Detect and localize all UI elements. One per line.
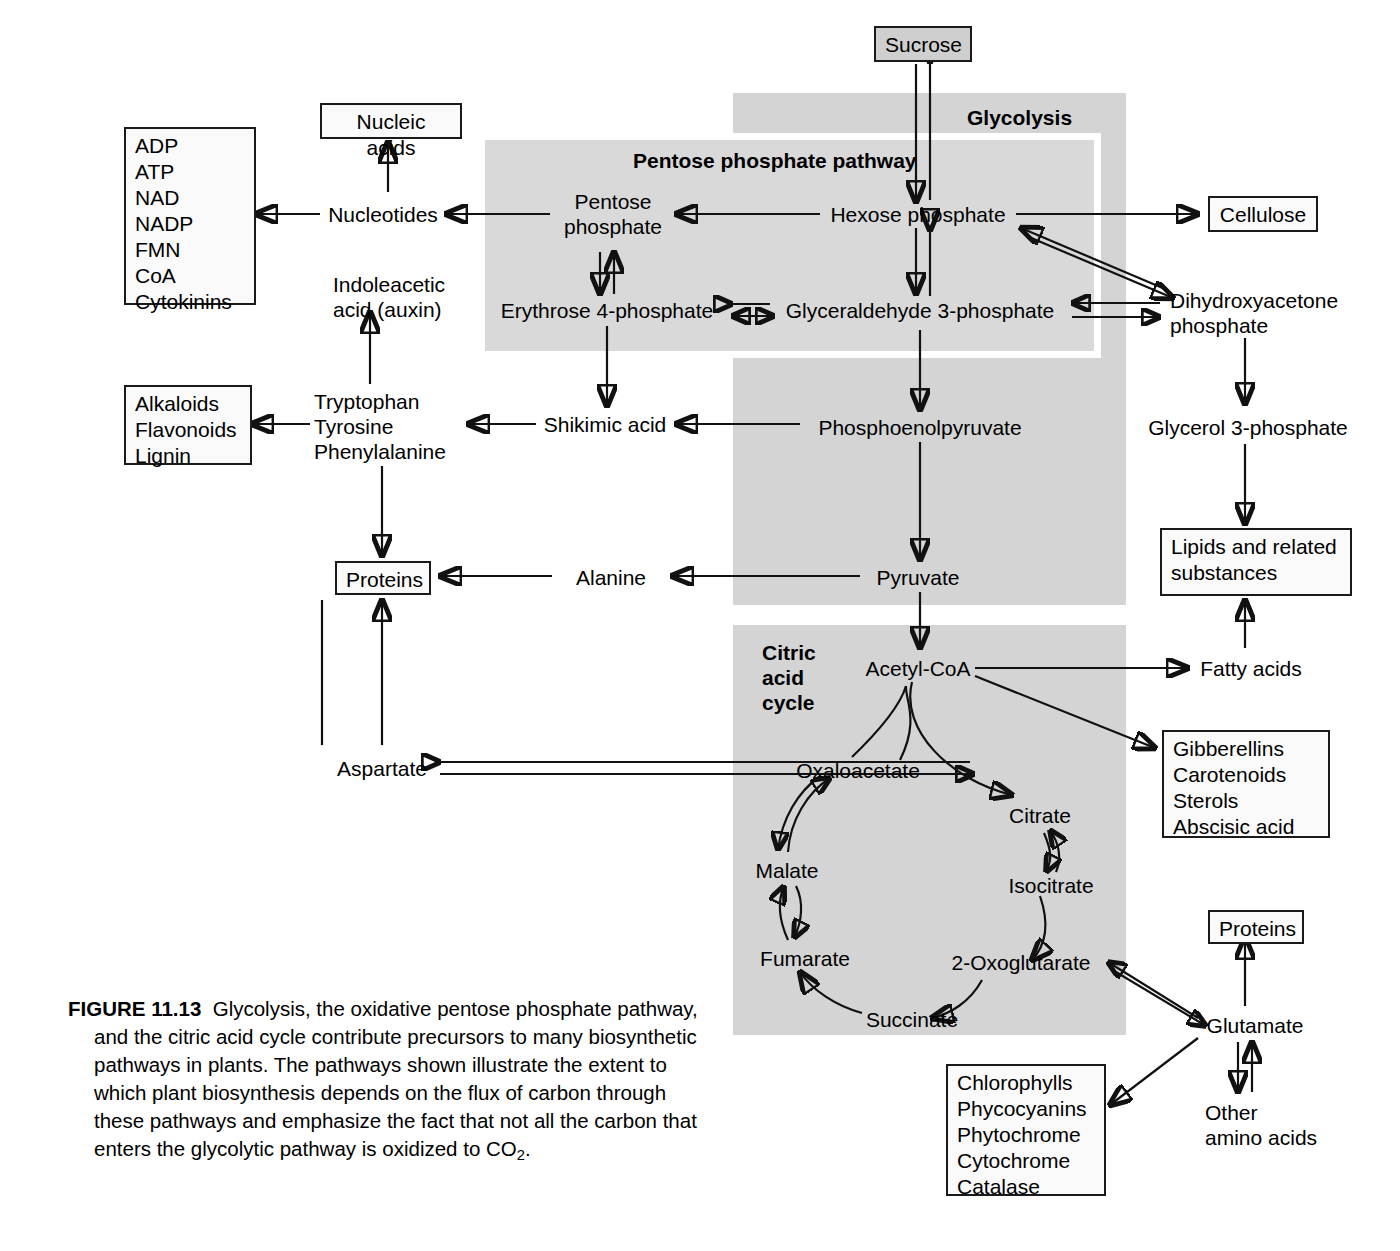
node-pentose-phosphate: Pentose phosphate (564, 189, 662, 239)
node-glutamate: Glutamate (1207, 1013, 1304, 1038)
dhap-line-2: phosphate (1170, 313, 1338, 338)
box-terpenoids[interactable]: Gibberellins Carotenoids Sterols Abscisi… (1162, 730, 1330, 838)
node-shikimic-acid: Shikimic acid (544, 412, 667, 437)
box-proteins-right[interactable]: Proteins (1208, 910, 1304, 944)
node-alanine: Alanine (576, 565, 646, 590)
node-citrate: Citrate (1009, 803, 1071, 828)
node-fatty-acids: Fatty acids (1200, 656, 1302, 681)
figure-number: FIGURE 11.13 (68, 997, 201, 1020)
phenolic-item: Flavonoids (135, 417, 241, 443)
node-fumarate: Fumarate (760, 946, 850, 971)
citric-acid-cycle-label-line-3: cycle (762, 690, 816, 715)
figure-caption-period: . (525, 1137, 531, 1160)
node-hexose-phosphate: Hexose phosphate (830, 202, 1005, 227)
box-nucleic-acids[interactable]: Nucleic acids (320, 103, 462, 139)
tetrapyrrole-item: Catalase (957, 1174, 1095, 1200)
lipids-line-2: substances (1171, 560, 1341, 586)
cofactor-item: CoA (135, 263, 245, 289)
node-other-amino-acids: Other amino acids (1205, 1100, 1317, 1150)
aromatic-aa-item: Tryptophan (314, 389, 446, 414)
terpenoid-item: Abscisic acid (1173, 814, 1319, 840)
node-phosphoenolpyruvate: Phosphoenolpyruvate (818, 415, 1021, 440)
terpenoid-item: Sterols (1173, 788, 1319, 814)
tetrapyrrole-item: Cytochrome (957, 1148, 1095, 1174)
box-sucrose[interactable]: Sucrose (874, 26, 972, 62)
tetrapyrrole-item: Chlorophylls (957, 1070, 1095, 1096)
figure-caption-subscript: 2 (517, 1147, 525, 1163)
other-aa-line-1: Other (1205, 1100, 1317, 1125)
node-malate: Malate (755, 858, 818, 883)
box-phenolics[interactable]: Alkaloids Flavonoids Lignin (124, 385, 252, 465)
phenolic-item: Alkaloids (135, 391, 241, 417)
citric-acid-cycle-label-line-2: acid (762, 665, 816, 690)
box-cellulose[interactable]: Cellulose (1208, 196, 1318, 232)
glycolysis-label: Glycolysis (967, 105, 1072, 130)
node-aromatic-amino-acids: Tryptophan Tyrosine Phenylalanine (314, 389, 446, 464)
box-proteins-left[interactable]: Proteins (335, 561, 431, 595)
figure-caption-text: Glycolysis, the oxidative pentose phosph… (94, 997, 698, 1160)
node-indoleacetic-acid: Indoleacetic acid (auxin) (333, 272, 445, 322)
terpenoid-item: Gibberellins (1173, 736, 1319, 762)
iaa-line-2: acid (auxin) (333, 297, 445, 322)
pentose-phosphate-line-2: phosphate (564, 214, 662, 239)
box-cofactors[interactable]: ADP ATP NAD NADP FMN CoA Cytokinins (124, 127, 256, 305)
node-erythrose-4-phosphate: Erythrose 4-phosphate (501, 298, 713, 323)
node-aspartate: Aspartate (337, 756, 427, 781)
terpenoid-item: Carotenoids (1173, 762, 1319, 788)
pentose-phosphate-pathway-label: Pentose phosphate pathway (633, 148, 917, 173)
node-pyruvate: Pyruvate (877, 565, 960, 590)
node-2-oxoglutarate: 2-Oxoglutarate (952, 950, 1091, 975)
cofactor-item: Cytokinins (135, 289, 245, 315)
node-glycerol-3-phosphate: Glycerol 3-phosphate (1148, 415, 1348, 440)
node-glyceraldehyde-3-phosphate: Glyceraldehyde 3-phosphate (786, 298, 1055, 323)
citric-acid-cycle-label: Citric acid cycle (762, 640, 816, 715)
cofactor-item: NAD (135, 185, 245, 211)
tetrapyrrole-item: Phycocyanins (957, 1096, 1095, 1122)
dhap-line-1: Dihydroxyacetone (1170, 288, 1338, 313)
node-acetyl-coa: Acetyl-CoA (865, 656, 970, 681)
citric-acid-cycle-label-line-1: Citric (762, 640, 816, 665)
pentose-phosphate-line-1: Pentose (564, 189, 662, 214)
tetrapyrrole-item: Phytochrome (957, 1122, 1095, 1148)
aromatic-aa-item: Tyrosine (314, 414, 446, 439)
cofactor-item: ATP (135, 159, 245, 185)
aromatic-aa-item: Phenylalanine (314, 439, 446, 464)
node-oxaloacetate: Oxaloacetate (796, 758, 920, 783)
other-aa-line-2: amino acids (1205, 1125, 1317, 1150)
cofactor-item: NADP (135, 211, 245, 237)
box-tetrapyrroles[interactable]: Chlorophylls Phycocyanins Phytochrome Cy… (946, 1064, 1106, 1196)
phenolic-item: Lignin (135, 443, 241, 469)
iaa-line-1: Indoleacetic (333, 272, 445, 297)
node-dihydroxyacetone-phosphate: Dihydroxyacetone phosphate (1170, 288, 1338, 338)
box-lipids[interactable]: Lipids and related substances (1160, 528, 1352, 596)
node-isocitrate: Isocitrate (1008, 873, 1093, 898)
cofactor-item: FMN (135, 237, 245, 263)
figure-caption: FIGURE 11.13 Glycolysis, the oxidative p… (68, 995, 698, 1165)
lipids-line-1: Lipids and related (1171, 534, 1341, 560)
figure-canvas: Glycolysis Pentose phosphate pathway Cit… (0, 0, 1400, 1251)
cofactor-item: ADP (135, 133, 245, 159)
node-nucleotides: Nucleotides (328, 202, 438, 227)
node-succinate: Succinate (866, 1007, 958, 1032)
